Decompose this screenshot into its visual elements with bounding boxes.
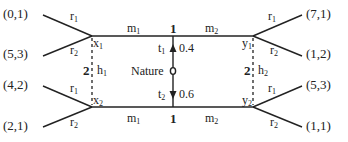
payoff-left-1: (0,1): [3, 7, 28, 20]
nature-label: Nature: [131, 65, 164, 78]
info-set-h1-player: 2: [83, 64, 90, 77]
action-right-r1-bottom: r1: [268, 82, 276, 98]
action-right-r2-bottom: r2: [270, 116, 278, 132]
nature-prob-t2: 0.6: [179, 88, 194, 101]
bottom-action-m2: m2: [205, 112, 218, 128]
node-x2-label: x2: [93, 94, 103, 110]
payoff-left-4: (2,1): [3, 119, 28, 132]
node-y1-label: y1: [242, 37, 252, 53]
node-x1-label: x1: [93, 37, 103, 53]
action-right-r1-top: r1: [268, 10, 276, 26]
payoff-right-1: (7,1): [306, 7, 331, 20]
action-right-r2-top: r2: [270, 44, 278, 60]
action-left-r1-bottom: r1: [70, 82, 78, 98]
payoff-right-2: (1,2): [306, 47, 331, 60]
bottom-action-m1: m1: [127, 112, 140, 128]
top-player-label: 1: [170, 22, 177, 35]
nature-move-t2: t2: [158, 88, 165, 104]
payoff-left-3: (4,2): [3, 78, 28, 91]
top-action-m1: m1: [127, 22, 140, 38]
node-y2-label: y2: [242, 94, 252, 110]
action-left-r2-top: r2: [70, 44, 78, 60]
payoff-left-2: (5,3): [3, 47, 28, 60]
info-set-h1-label: h1: [97, 64, 107, 80]
info-set-h2-player: 2: [244, 64, 251, 77]
top-action-m2: m2: [205, 22, 218, 38]
nature-prob-t1: 0.4: [179, 42, 194, 55]
bottom-player-label: 1: [170, 112, 177, 125]
payoff-right-4: (1,1): [306, 119, 331, 132]
action-left-r1-top: r1: [70, 10, 78, 26]
nature-move-t1: t1: [158, 42, 165, 58]
payoff-right-3: (5,3): [306, 78, 331, 91]
info-set-h2-label: h2: [258, 64, 268, 80]
action-left-r2-bottom: r2: [70, 116, 78, 132]
